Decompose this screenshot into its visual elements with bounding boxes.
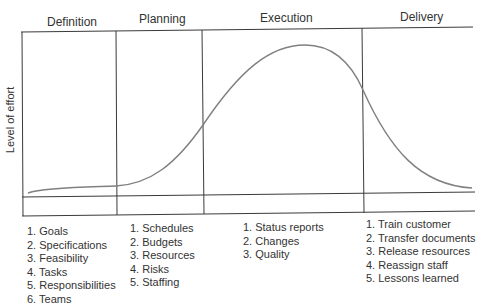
task-item: 5. Responsibilities [27,279,116,293]
task-list-execution: 1. Status reports 2. Changes 3. Quality [243,221,324,262]
task-item: 1. Goals [27,225,116,239]
task-item: 5. Lessons learned [366,272,475,286]
phase-title-planning: Planning [139,12,186,26]
task-list-delivery: 1. Train customer 2. Transfer documents … [366,218,475,286]
task-item: 2. Transfer documents [366,232,475,246]
task-item: 1. Status reports [243,221,324,235]
task-item: 2. Budgets [130,236,195,250]
task-item: 1. Train customer [366,218,475,232]
phase-title-delivery: Delivery [400,10,443,24]
phase-title-execution: Execution [260,11,313,25]
divider-execution-delivery [362,28,364,213]
task-item: 3. Release resources [366,245,475,259]
y-axis-label: Level of effort [4,87,16,153]
task-item: 2. Specifications [27,239,116,253]
task-item: 4. Risks [130,263,195,277]
task-item: 4. Tasks [27,266,116,280]
effort-curve [28,45,472,193]
task-item: 3. Feasibility [27,252,116,266]
divider-definition-planning [116,31,117,215]
task-item: 1. Schedules [130,222,195,236]
task-item: 2. Changes [243,235,324,249]
divider-planning-execution [202,30,204,214]
task-item: 3. Quality [243,248,324,262]
task-list-definition: 1. Goals 2. Specifications 3. Feasibilit… [27,225,116,307]
bottom-border-line [22,211,475,216]
task-item: 6. Teams [27,293,116,307]
phase-title-definition: Definition [47,15,97,29]
task-item: 3. Resources [130,249,195,263]
task-item: 5. Staffing [130,276,195,290]
left-border-line [22,32,23,216]
task-list-planning: 1. Schedules 2. Budgets 3. Resources 4. … [130,222,195,290]
task-item: 4. Reassign staff [366,259,475,273]
baseline [22,192,475,197]
